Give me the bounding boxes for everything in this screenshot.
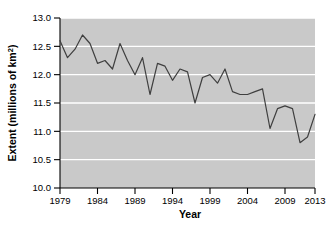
y-axis-ticks [54, 18, 60, 188]
x-tick-label: 2009 [274, 195, 295, 206]
x-axis-title-text: Year [179, 208, 201, 220]
y-tick-label: 10.5 [33, 154, 52, 165]
y-tick-label: 11.5 [33, 97, 51, 108]
y-tick-label: 12.0 [33, 69, 52, 80]
y-tick-label: 12.5 [33, 41, 52, 52]
x-axis-title: Year [179, 208, 201, 220]
y-axis-title-text: Extent (millions of km2) [6, 45, 19, 162]
y-tick-label: 10.0 [33, 182, 52, 193]
y-axis-tick-labels: 10.010.511.011.512.012.513.0 [33, 12, 52, 193]
sea-ice-extent-line-chart: 10.010.511.011.512.012.513.0 19791984198… [0, 0, 334, 233]
x-tick-label: 1999 [199, 195, 220, 206]
x-tick-label: 1989 [124, 195, 145, 206]
y-tick-label: 13.0 [33, 12, 52, 23]
x-tick-label: 2004 [237, 195, 258, 206]
x-axis-tick-labels: 19791984198919941999200420092013 [49, 195, 325, 206]
x-axis-ticks [60, 188, 315, 194]
x-tick-label: 1979 [49, 195, 70, 206]
x-tick-label: 2013 [304, 195, 325, 206]
x-tick-label: 1984 [87, 195, 108, 206]
y-tick-label: 11.0 [33, 126, 51, 137]
x-tick-label: 1994 [162, 195, 183, 206]
y-axis-title: Extent (millions of km2) [6, 45, 19, 162]
y-axis-title-close: ) [6, 45, 18, 49]
x-axis: 19791984198919941999200420092013 [49, 188, 325, 206]
y-axis: 10.010.511.011.512.012.513.0 [33, 12, 61, 193]
chart-svg: 10.010.511.011.512.012.513.0 19791984198… [0, 0, 334, 233]
y-axis-title-base: Extent (millions of km [6, 52, 18, 161]
